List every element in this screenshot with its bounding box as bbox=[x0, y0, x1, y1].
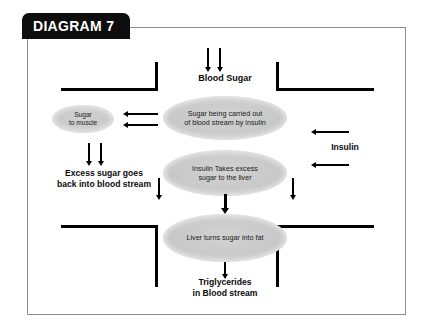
node-sugar-carried-out-line1: Sugar being carried out bbox=[188, 109, 263, 118]
excess-sugar-label-line2: back into blood stream bbox=[57, 179, 151, 189]
vessel-wall-top-left-horizontal bbox=[61, 88, 158, 91]
blood-sugar-label: Blood Sugar bbox=[170, 73, 280, 84]
triglycerides-label-line2: in Blood stream bbox=[193, 288, 258, 298]
node-liver-fat-text: Liver turns sugar into fat bbox=[186, 233, 263, 242]
node-sugar-to-muscle-line2: to muscle bbox=[69, 119, 97, 126]
node-insulin-takes-line2: sugar to the liver bbox=[198, 173, 251, 182]
diagram-title-tab: DIAGRAM 7 bbox=[22, 13, 130, 39]
node-sugar-to-muscle-line1: Sugar bbox=[74, 111, 92, 118]
diagram-title-label: DIAGRAM 7 bbox=[33, 19, 114, 33]
triglycerides-label-line1: Triglycerides bbox=[198, 277, 251, 287]
node-liver-turns-sugar-into-fat: Liver turns sugar into fat bbox=[163, 214, 287, 262]
vessel-wall-top-right-horizontal bbox=[276, 88, 374, 91]
node-insulin-takes-line1: Insulin Takes excess bbox=[192, 164, 258, 173]
excess-sugar-label-line1: Excess sugar goes bbox=[65, 168, 143, 178]
vessel-wall-bottom-right-horizontal bbox=[276, 225, 374, 228]
node-insulin-takes-excess-sugar: Insulin Takes excess sugar to the liver bbox=[163, 150, 287, 196]
excess-sugar-label: Excess sugar goes back into blood stream bbox=[34, 168, 174, 189]
triglycerides-label: Triglycerides in Blood stream bbox=[170, 277, 280, 298]
node-sugar-carried-out: Sugar being carried out of blood stream … bbox=[163, 96, 287, 140]
node-sugar-carried-out-line2: of blood stream by insulin bbox=[184, 118, 266, 127]
vessel-wall-bottom-left-horizontal bbox=[61, 225, 158, 228]
insulin-label: Insulin bbox=[310, 142, 380, 153]
vessel-wall-top-left-vertical bbox=[155, 62, 158, 91]
node-sugar-to-muscle: Sugar to muscle bbox=[52, 105, 114, 133]
vessel-wall-bottom-left-vertical bbox=[155, 225, 158, 287]
